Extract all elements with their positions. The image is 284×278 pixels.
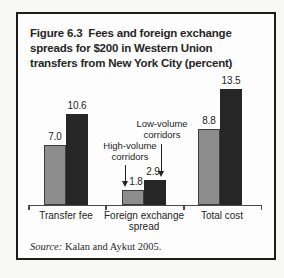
bar-fx-spread-high-volume — [122, 190, 144, 206]
bar-chart: 7.0 10.6 1.8 2.9 8.8 13.5 High-volume co… — [28, 64, 262, 205]
value-label-fx-spread-high: 1.8 — [129, 176, 143, 187]
source-note: Source: Kalan and Aykut 2005. — [30, 241, 161, 252]
category-label-total-cost: Total cost — [176, 210, 268, 221]
bar-fx-spread-low-volume — [144, 180, 166, 205]
value-label-total-cost-low: 13.5 — [221, 75, 240, 86]
bar-total-cost-low-volume — [220, 89, 242, 205]
arrow-head-icon — [158, 171, 164, 177]
bar-transfer-fee-low-volume — [66, 114, 88, 205]
x-axis-line — [28, 205, 262, 207]
value-label-total-cost-high: 8.8 — [202, 115, 216, 126]
bar-group-total-cost: 8.8 13.5 — [198, 64, 242, 205]
figure-box: Figure 6.3 Fees and foreign exchange spr… — [16, 12, 276, 260]
value-label-transfer-fee-high: 7.0 — [48, 131, 62, 142]
arrow-shaft — [161, 144, 162, 173]
bar-total-cost-high-volume — [198, 129, 220, 205]
down-arrow-icon — [158, 144, 165, 177]
bar-group-transfer-fee: 7.0 10.6 — [44, 64, 88, 205]
source-text: Kalan and Aykut 2005. — [62, 241, 161, 252]
annotation-low-volume-corridors: Low-volume corridors — [120, 119, 204, 140]
arrow-head-icon — [122, 181, 128, 187]
value-label-transfer-fee-low: 10.6 — [67, 100, 86, 111]
bar-transfer-fee-high-volume — [44, 145, 66, 205]
source-label: Source: — [30, 241, 62, 252]
down-arrow-icon — [122, 165, 129, 187]
